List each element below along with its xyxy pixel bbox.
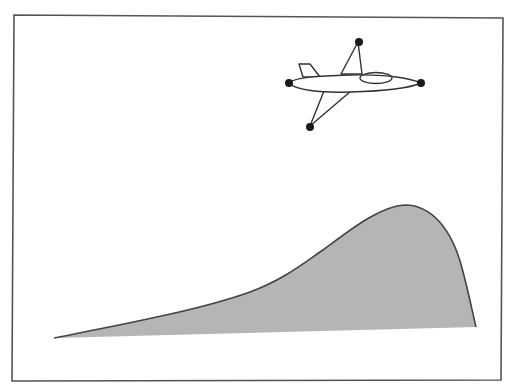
airplane-bottom-wingtip <box>306 123 314 131</box>
airplane-top-wingtip <box>355 38 363 46</box>
airplane-tail-tip <box>285 79 293 87</box>
airplane-nose-tip <box>417 79 425 87</box>
diagram-canvas: Airplane flying above a hill-shaped curv… <box>0 0 509 389</box>
